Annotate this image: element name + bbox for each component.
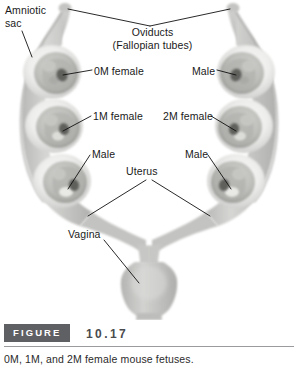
caption-divider [4,346,294,347]
right-uterine-horn [206,3,277,226]
leader-uterus-left [88,180,146,216]
label-oviducts-line2: (Fallopian tubes) [95,39,210,52]
label-male-top-right: Male [192,65,215,78]
leader-amniotic-sac [22,31,32,57]
fetus-sac-left-middle [25,99,83,153]
label-oviducts: Oviducts (Fallopian tubes) [95,26,210,51]
figure-number: 10.17 [86,327,128,341]
label-1m-female: 1M female [93,110,143,123]
figure-badge: FIGURE [4,324,70,342]
label-uterus: Uterus [126,165,158,178]
leader-oviduct-right [150,9,230,26]
figure-badge-row: FIGURE 10.17 [0,322,298,344]
figure-caption-block: FIGURE 10.17 0M, 1M, and 2M female mouse… [0,322,298,344]
left-uterine-horn [21,3,92,226]
label-2m-female: 2M female [163,110,213,123]
label-vagina: Vagina [68,228,101,241]
label-male-bottom-right: Male [185,148,208,161]
fetus-sac-left-top [23,45,81,99]
label-amniotic-sac: Amniotic sac [5,4,63,29]
leader-uterus-right [152,180,210,216]
fetus-sac-right-bottom [207,154,265,208]
fetus-sac-left-bottom [33,154,91,208]
figure-caption-text: 0M, 1M, and 2M female mouse fetuses. [4,353,296,365]
label-0m-female: 0M female [94,65,144,78]
figure-illustration: Amniotic sac Oviducts (Fallopian tubes) … [0,0,298,320]
leader-oviduct-left [68,9,150,26]
label-male-bottom-left: Male [92,148,115,161]
label-oviducts-line1: Oviducts [95,26,210,39]
fetus-sac-right-middle [215,99,273,153]
